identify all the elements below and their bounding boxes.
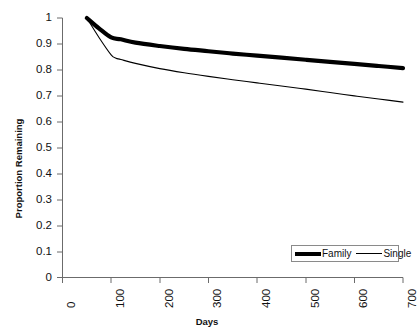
y-tick-label: 0.9: [18, 38, 52, 49]
x-tick-label: 100: [115, 289, 126, 308]
legend-label-single: Single: [383, 248, 411, 259]
chart-legend: Family Single: [291, 245, 399, 262]
x-tick-label: 300: [212, 289, 223, 308]
legend-entry-family: Family: [295, 248, 351, 259]
legend-entry-single: Single: [356, 248, 411, 259]
y-axis-ticks: [57, 18, 63, 278]
series-line-family: [87, 18, 403, 68]
series-line-single: [87, 18, 403, 102]
legend-label-family: Family: [322, 248, 351, 259]
y-tick-label: 0.8: [18, 64, 52, 75]
x-tick-label: 700: [407, 289, 418, 308]
y-tick-label: 1: [18, 12, 52, 23]
x-axis-title: Days: [0, 316, 414, 327]
x-tick-label: 500: [310, 289, 321, 308]
y-tick-label: 0: [18, 272, 52, 283]
x-tick-label: 400: [261, 289, 272, 308]
x-tick-label: 200: [164, 289, 175, 308]
legend-swatch-icon: [295, 252, 321, 256]
legend-swatch-icon: [356, 253, 382, 254]
x-axis-ticks: [63, 278, 404, 284]
x-tick-label: 600: [358, 289, 369, 308]
x-tick-label: 0: [66, 302, 77, 308]
y-axis-title: Proportion Remaining: [13, 89, 24, 249]
